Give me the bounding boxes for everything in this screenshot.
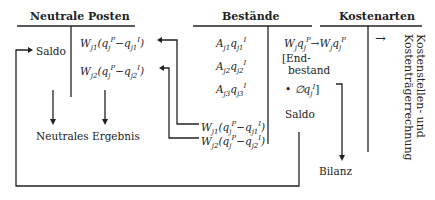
stock-debit-2: Aj2qj2I — [216, 57, 246, 77]
balance-sheet: Bilanz — [319, 165, 352, 177]
header-stocks: Bestände — [222, 11, 279, 23]
neutral-result: Neutrales Ergebnis — [36, 130, 140, 142]
stock-debit-3: Aj3qj3I — [216, 80, 246, 100]
arrow-right-icon: → — [375, 33, 386, 45]
stock-debit-1: Aj1qj1I — [216, 34, 246, 54]
end-stock-line1: [End- — [282, 52, 311, 64]
cost-center-accounting-label: Kostenstellen- undKostenträgerrechnung — [402, 34, 426, 161]
header-neutral-items: Neutrale Posten — [30, 11, 130, 23]
diagram-lines — [0, 0, 435, 200]
end-stock-line2: bestand — [288, 64, 330, 76]
stock-transfer-2: Wj2(qjP−qj2I) — [201, 132, 265, 152]
stock-saldo: Saldo — [285, 108, 315, 120]
neutral-saldo: Saldo — [36, 45, 66, 57]
header-cost-types: Kostenarten — [339, 11, 415, 23]
neutral-item-1: Wj1(qjP−qj1I) — [80, 34, 144, 54]
cost-entry: WjqjP→WjqjP — [284, 34, 346, 54]
neutral-item-2: Wj2(qjP−qj2I) — [80, 62, 144, 82]
end-stock-line3: • ∅qjI] — [285, 80, 319, 100]
